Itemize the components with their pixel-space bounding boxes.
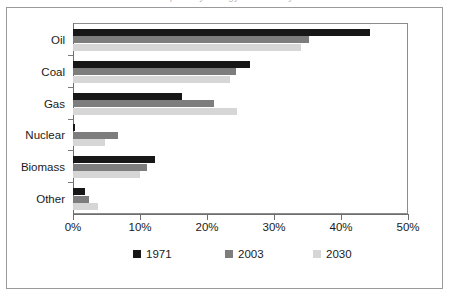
x-axis-tick-label: 20% — [195, 221, 218, 233]
bar-nuclear-1971 — [73, 124, 75, 131]
legend-swatch-2030 — [313, 250, 321, 258]
chart-legend: 197120032030 — [73, 248, 408, 264]
bars-layer — [73, 23, 408, 214]
bar-oil-2030 — [73, 44, 301, 51]
x-axis-tick-label: 30% — [262, 221, 285, 233]
bar-other-2003 — [73, 196, 89, 203]
x-axis-tick — [73, 215, 74, 220]
legend-swatch-2003 — [225, 250, 233, 258]
bar-gas-2030 — [73, 108, 237, 115]
legend-item-2003[interactable]: 2003 — [225, 248, 264, 260]
bar-biomass-2030 — [73, 171, 140, 178]
bar-gas-2003 — [73, 100, 214, 107]
category-label-nuclear: Nuclear — [25, 129, 65, 141]
bar-oil-2003 — [73, 36, 309, 43]
x-axis-tick — [140, 215, 141, 220]
legend-swatch-1971 — [133, 250, 141, 258]
bar-nuclear-2003 — [73, 132, 118, 139]
bar-biomass-2003 — [73, 164, 147, 171]
category-label-oil: Oil — [51, 34, 65, 46]
x-axis-tick — [408, 215, 409, 220]
bar-oil-1971 — [73, 29, 370, 36]
x-axis-tick-label: 0% — [65, 221, 82, 233]
bar-coal-1971 — [73, 61, 250, 68]
bar-other-1971 — [73, 188, 85, 195]
legend-item-1971[interactable]: 1971 — [133, 248, 172, 260]
bar-other-2030 — [73, 203, 98, 210]
category-label-other: Other — [36, 193, 65, 205]
legend-label-2030: 2030 — [326, 248, 352, 260]
category-label-gas: Gas — [44, 98, 65, 110]
bar-biomass-1971 — [73, 156, 155, 163]
x-axis-tick-label: 50% — [396, 221, 419, 233]
x-axis-tick — [341, 215, 342, 220]
category-label-coal: Coal — [41, 66, 65, 78]
category-label-biomass: Biomass — [21, 161, 65, 173]
x-axis-line — [73, 214, 409, 215]
category-axis-labels: OilCoalGasNuclearBiomassOther — [10, 23, 70, 214]
x-axis-tick-label: 40% — [329, 221, 352, 233]
x-axis-tick-label: 10% — [128, 221, 151, 233]
x-axis-tick — [274, 215, 275, 220]
legend-label-2003: 2003 — [238, 248, 264, 260]
chart-figure: Global primary energy demand by fuel Oil… — [0, 0, 450, 296]
legend-label-1971: 1971 — [146, 248, 172, 260]
bar-nuclear-2030 — [73, 139, 105, 146]
bar-coal-2030 — [73, 76, 230, 83]
legend-item-2030[interactable]: 2030 — [313, 248, 352, 260]
bar-coal-2003 — [73, 68, 236, 75]
bar-gas-1971 — [73, 93, 182, 100]
chart-title-clipped: Global primary energy demand by fuel — [0, 0, 450, 7]
chart-title-text: Global primary energy demand by fuel — [137, 0, 314, 2]
x-axis-tick — [207, 215, 208, 220]
